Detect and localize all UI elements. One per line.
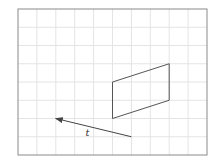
grid-diagram: t bbox=[0, 0, 219, 162]
parallelogram-shape bbox=[113, 64, 170, 119]
vector-label: t bbox=[86, 127, 91, 138]
